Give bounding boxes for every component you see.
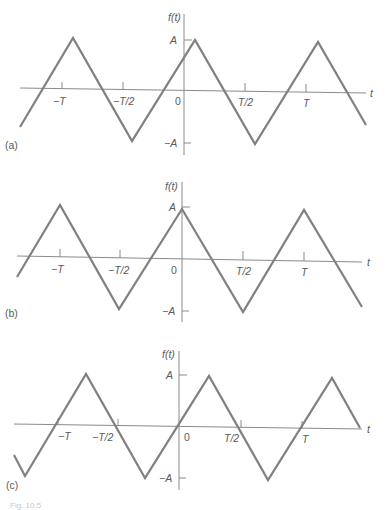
xtick-negT-c: −T xyxy=(58,430,72,442)
xtick-0-c: 0 xyxy=(184,431,190,443)
xtick-negT-b: −T xyxy=(51,263,65,275)
xlabel-b: t xyxy=(367,256,371,268)
xtick-negT-a: −T xyxy=(53,95,67,107)
xtick-T-c: T xyxy=(302,433,310,445)
ylabel-a: f(t) xyxy=(168,11,181,23)
xtick-negThalf-c: −T/2 xyxy=(92,431,113,443)
ylabel-c: f(t) xyxy=(162,348,175,360)
ytick-negA-b: −A xyxy=(162,305,175,317)
ytick-negA-a: −A xyxy=(164,137,177,149)
panel-label-c: (c) xyxy=(6,479,18,491)
t-axis xyxy=(14,424,362,429)
ylabel-b: f(t) xyxy=(165,180,178,192)
xlabel-c: t xyxy=(367,423,371,435)
ytick-A-b: A xyxy=(168,201,176,213)
xtick-Thalf-a: T/2 xyxy=(238,96,253,108)
ytick-A-a: A xyxy=(169,34,177,46)
waveform-c xyxy=(14,374,360,480)
xlabel-a: t xyxy=(370,87,374,99)
panel-c: f(t) A −A −T −T/2 0 T/2 T t (c) xyxy=(6,348,371,491)
xtick-negThalf-a: −T/2 xyxy=(113,95,134,107)
ytick-negA-c: −A xyxy=(159,472,172,484)
xtick-negThalf-b: −T/2 xyxy=(108,264,129,276)
figure-canvas: f(t) A −A −T −T/2 0 T/2 T t (a) f(t) A −… xyxy=(0,0,388,510)
t-axis xyxy=(17,256,362,262)
panel-a: f(t) A −A −T −T/2 0 T/2 T t (a) xyxy=(5,11,374,155)
panel-label-b: (b) xyxy=(5,307,18,319)
panel-b: f(t) A −A −T −T/2 0 T/2 T t (b) xyxy=(5,180,371,322)
panel-label-a: (a) xyxy=(5,139,18,151)
xtick-T-b: T xyxy=(301,266,309,278)
xtick-T-a: T xyxy=(303,97,311,109)
ytick-A-c: A xyxy=(165,369,173,381)
t-axis xyxy=(20,88,366,93)
xtick-Thalf-c: T/2 xyxy=(224,432,239,444)
xtick-Thalf-b: T/2 xyxy=(236,265,251,277)
figure-caption: Fig. 10.5 xyxy=(10,501,41,510)
xtick-0-a: 0 xyxy=(175,95,181,107)
xtick-0-b: 0 xyxy=(171,264,177,276)
